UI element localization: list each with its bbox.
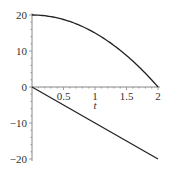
series-upper-curve: [32, 15, 158, 87]
y-tick-label: −20: [10, 153, 28, 165]
y-tick-label: 0: [22, 81, 28, 93]
chart: −20−10010200.511.52t: [0, 0, 171, 173]
x-tick-label: 1.5: [120, 90, 134, 102]
x-tick-label: 2: [155, 90, 161, 102]
y-tick-label: 20: [16, 9, 28, 21]
y-tick-label: −10: [10, 117, 28, 129]
x-tick-label: 0.5: [57, 90, 71, 102]
y-tick-label: 10: [16, 45, 28, 57]
